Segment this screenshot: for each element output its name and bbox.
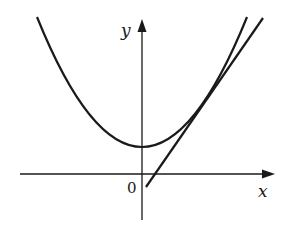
x-axis-arrow-icon xyxy=(262,170,275,179)
origin-label: 0 xyxy=(127,179,137,197)
y-axis-arrow-icon xyxy=(138,19,147,32)
x-axis-label: x xyxy=(258,181,268,201)
x-axis xyxy=(20,170,275,179)
y-axis xyxy=(138,19,147,220)
y-axis-label: y xyxy=(120,20,131,40)
graph-figure: y 0 x xyxy=(0,0,283,226)
tangent-line xyxy=(146,18,263,187)
